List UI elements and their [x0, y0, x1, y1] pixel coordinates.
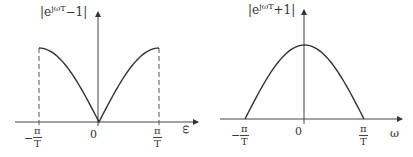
right-x-axis-label: ω [390, 128, 399, 139]
right-tick-neg-pi-over-t: πT [240, 124, 249, 147]
left-tick-neg-pi-over-t: πT [33, 126, 42, 149]
left-tick-neg-sign: − [24, 132, 33, 145]
left-tick-pos-pi-over-t: πT [153, 126, 162, 149]
plots-canvas [0, 0, 413, 157]
left-x-axis-label: ω [181, 125, 192, 134]
right-plot [220, 10, 402, 124]
left-y-axis-label: |ejωT−1| [40, 6, 87, 18]
left-plot [15, 12, 198, 126]
right-y-axis-label: |ejωT+1| [248, 4, 295, 16]
right-tick-pos-pi-over-t: πT [359, 124, 368, 147]
right-tick-zero: 0 [295, 126, 302, 137]
left-tick-zero: 0 [90, 129, 97, 140]
right-tick-neg-sign: − [231, 129, 240, 142]
left-curve [39, 48, 159, 122]
